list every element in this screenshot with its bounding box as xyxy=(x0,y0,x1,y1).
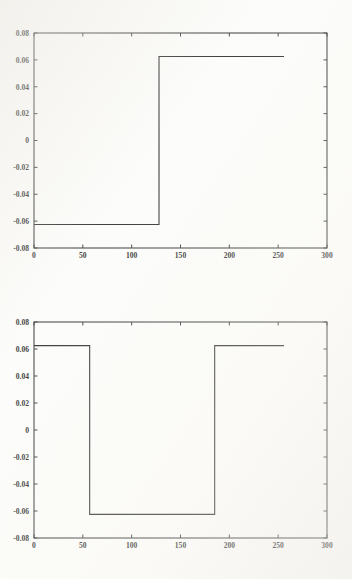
y-tick-label: -0.06 xyxy=(13,507,29,516)
y-tick-label: 0.04 xyxy=(16,83,29,92)
data-series-line xyxy=(34,57,284,225)
y-tick-label: -0.04 xyxy=(13,190,29,199)
x-tick-label: 150 xyxy=(175,541,187,550)
x-tick-label: 150 xyxy=(175,251,187,260)
data-series-line xyxy=(34,346,284,515)
y-tick-label: 0.02 xyxy=(16,109,29,118)
x-tick-label: 0 xyxy=(32,251,36,260)
y-tick-label: 0.04 xyxy=(16,372,29,381)
pulse-signal-plot: 050100150200250300-0.08-0.06-0.04-0.0200… xyxy=(0,290,352,579)
x-tick-label: 50 xyxy=(79,541,87,550)
x-tick-label: 300 xyxy=(321,541,333,550)
plot-axes-box xyxy=(34,33,327,248)
y-tick-label: 0.08 xyxy=(16,318,29,327)
x-tick-label: 250 xyxy=(272,541,284,550)
x-tick-label: 0 xyxy=(32,541,36,550)
y-tick-label: 0.06 xyxy=(16,345,29,354)
y-tick-label: 0.02 xyxy=(16,399,29,408)
y-tick-label: -0.08 xyxy=(13,244,29,253)
y-tick-label: 0.06 xyxy=(16,56,29,65)
y-tick-label: 0 xyxy=(25,426,29,435)
y-tick-label: 0.08 xyxy=(16,29,29,38)
y-tick-label: 0 xyxy=(25,136,29,145)
x-tick-label: 100 xyxy=(126,251,138,260)
y-tick-label: -0.02 xyxy=(13,163,29,172)
y-tick-label: -0.06 xyxy=(13,217,29,226)
x-tick-label: 250 xyxy=(272,251,284,260)
y-tick-label: -0.02 xyxy=(13,453,29,462)
chart-panel-top: 050100150200250300-0.08-0.06-0.04-0.0200… xyxy=(0,0,352,290)
x-tick-label: 200 xyxy=(224,251,236,260)
y-tick-label: -0.04 xyxy=(13,480,29,489)
chart-panel-bottom: 050100150200250300-0.08-0.06-0.04-0.0200… xyxy=(0,290,352,579)
x-tick-label: 300 xyxy=(321,251,333,260)
x-tick-label: 50 xyxy=(79,251,87,260)
x-tick-label: 100 xyxy=(126,541,138,550)
plot-axes-box xyxy=(34,322,327,538)
x-tick-label: 200 xyxy=(224,541,236,550)
step-signal-plot: 050100150200250300-0.08-0.06-0.04-0.0200… xyxy=(0,0,352,290)
y-tick-label: -0.08 xyxy=(13,534,29,543)
